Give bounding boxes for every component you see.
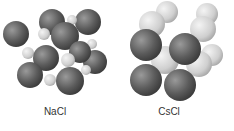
cscl-lattice xyxy=(130,1,223,101)
cscl-label: CsCl xyxy=(139,106,199,117)
nacl-label: NaCl xyxy=(25,106,85,117)
crystal-structures-figure: NaCl CsCl xyxy=(0,0,234,131)
nacl-lattice xyxy=(3,9,107,95)
